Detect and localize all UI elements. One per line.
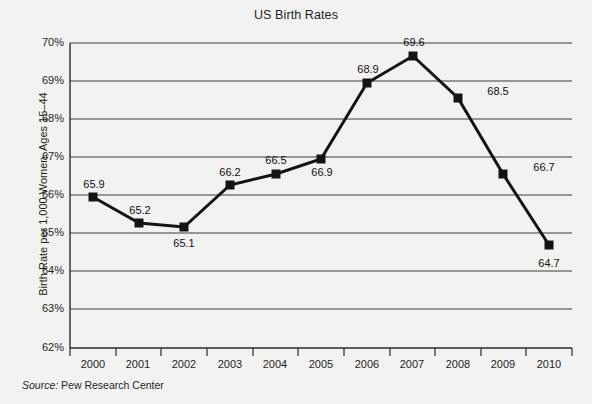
data-point-label: 65.2 [117, 204, 163, 216]
source-text: Pew Research Center [58, 379, 164, 391]
source-note: Source: Pew Research Center [22, 379, 164, 391]
data-point-marker [499, 170, 508, 179]
data-point-marker [545, 241, 554, 250]
data-point-marker [409, 52, 418, 61]
data-point-marker [363, 79, 372, 88]
data-point-label: 66.9 [299, 166, 345, 178]
x-tick-label: 2010 [519, 358, 579, 370]
data-point-label: 69.6 [391, 36, 437, 48]
data-point-marker [180, 223, 189, 232]
data-point-marker [226, 181, 235, 190]
data-point-label: 68.5 [475, 85, 521, 97]
data-point-label: 66.2 [207, 166, 253, 178]
data-point-label: 66.7 [521, 161, 567, 173]
data-point-label: 66.5 [253, 154, 299, 166]
data-point-label: 65.9 [71, 178, 117, 190]
data-point-label: 68.9 [345, 63, 391, 75]
data-point-marker [317, 155, 326, 164]
data-point-marker [272, 170, 281, 179]
data-point-label: 64.7 [526, 257, 572, 269]
data-point-marker [135, 219, 144, 228]
data-point-marker [454, 94, 463, 103]
plot-area [0, 0, 592, 404]
chart-figure: US Birth Rates Birth Rate per 1,000 Wome… [0, 0, 592, 404]
x-axis-ticks [70, 348, 572, 356]
source-label: Source: [22, 379, 58, 391]
data-point-marker [89, 193, 98, 202]
data-point-label: 65.1 [161, 237, 207, 249]
